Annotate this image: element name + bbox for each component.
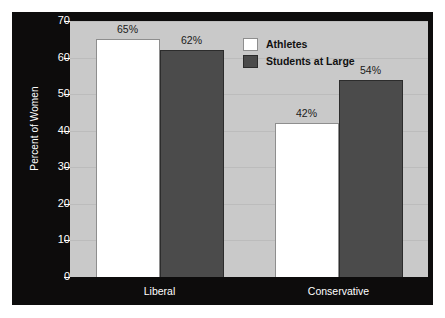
gridline [70, 21, 428, 22]
chart-legend: AthletesStudents at Large [243, 37, 355, 71]
bar [96, 39, 160, 277]
legend-item: Students at Large [243, 54, 355, 68]
legend-label: Students at Large [266, 55, 355, 67]
bar [339, 80, 403, 277]
bar [160, 50, 224, 277]
x-axis-tick-label: Liberal [100, 285, 220, 297]
bar-value-label: 62% [160, 35, 224, 46]
x-axis: LiberalConservative [70, 277, 428, 305]
legend-swatch-icon [243, 38, 258, 51]
plot-area: 65%62%42%54% AthletesStudents at Large [70, 21, 428, 277]
x-axis-tick-label: Conservative [279, 285, 399, 297]
legend-swatch-icon [243, 55, 258, 68]
bar [275, 123, 339, 277]
bar-chart-figure: Percent of Women 010203040506070 65%62%4… [12, 12, 433, 305]
bar-value-label: 65% [96, 24, 160, 35]
legend-item: Athletes [243, 37, 355, 51]
bar-value-label: 42% [275, 108, 339, 119]
legend-label: Athletes [266, 38, 307, 50]
